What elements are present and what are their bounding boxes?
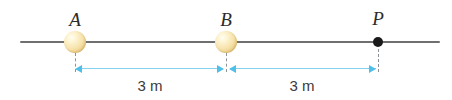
dimension-label-a-b: 3 m: [110, 78, 190, 93]
mass-sphere-a: [64, 31, 86, 53]
dimension-arrow-a-left: [75, 65, 82, 73]
extension-line-b: [226, 53, 227, 72]
field-point-p: [373, 37, 383, 47]
dimension-arrow-p-right: [369, 65, 376, 73]
label-point-b: B: [215, 10, 237, 29]
extension-line-p: [378, 49, 379, 72]
dimension-line-a-b: [78, 68, 223, 69]
label-point-a: A: [64, 10, 86, 29]
dimension-label-b-p: 3 m: [262, 78, 342, 93]
dimension-arrow-b-right: [217, 65, 224, 73]
physics-diagram: A B P 3 m 3 m: [0, 0, 452, 100]
label-point-p: P: [367, 9, 389, 28]
dimension-line-b-p: [230, 68, 376, 69]
dimension-arrow-b-left: [229, 65, 236, 73]
mass-sphere-b: [215, 31, 237, 53]
